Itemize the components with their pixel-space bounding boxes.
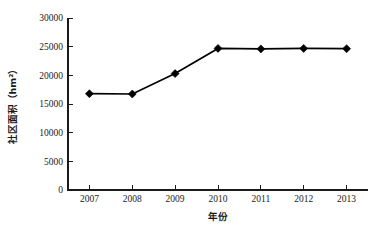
x-tick-label: 2013 <box>337 194 356 204</box>
x-tick-label: 2010 <box>209 194 228 204</box>
y-tick-label: 5000 <box>44 157 63 167</box>
y-tick-label: 10000 <box>39 128 63 138</box>
x-tick-label: 2011 <box>252 194 271 204</box>
x-axis-title: 年份 <box>208 211 228 222</box>
x-tick-label: 2009 <box>166 194 185 204</box>
y-tick-label: 15000 <box>39 99 63 109</box>
x-tick-label: 2012 <box>294 194 313 204</box>
y-axis-title: 社区面积（hm²） <box>7 64 18 146</box>
x-tick-label: 2008 <box>123 194 142 204</box>
x-tick-label: 2007 <box>80 194 99 204</box>
y-tick-label: 20000 <box>39 71 63 81</box>
line-chart: 0 5000 10000 15000 20000 25000 30000 200… <box>0 0 383 229</box>
y-tick-label: 30000 <box>39 13 63 23</box>
y-tick-label: 0 <box>58 185 63 195</box>
y-tick-label: 25000 <box>39 42 63 52</box>
chart-figure: 0 5000 10000 15000 20000 25000 30000 200… <box>0 0 383 229</box>
